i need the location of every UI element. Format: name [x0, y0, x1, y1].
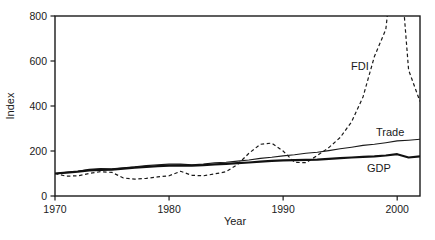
x-tick-label: 1970 [43, 203, 67, 215]
y-tick-label: 0 [41, 190, 47, 202]
x-tick-label: 2000 [386, 203, 410, 215]
series-label-fdi: FDI [351, 60, 369, 72]
x-tick-label: 1980 [157, 203, 181, 215]
series-line-gdp [55, 154, 420, 173]
plot-area: 02004006008001970198019902000 [0, 0, 435, 240]
x-tick-label: 1990 [271, 203, 295, 215]
series-label-trade: Trade [376, 126, 404, 138]
y-tick-label: 800 [29, 10, 47, 22]
x-axis-title: Year [195, 215, 275, 227]
series-label-gdp: GDP [367, 162, 391, 174]
series-line-fdi [55, 0, 420, 179]
y-tick-label: 400 [29, 100, 47, 112]
y-tick-label: 600 [29, 55, 47, 67]
y-tick-label: 200 [29, 145, 47, 157]
line-chart-figure: 02004006008001970198019902000 Index Year… [0, 0, 435, 240]
y-axis-title: Index [4, 56, 16, 156]
